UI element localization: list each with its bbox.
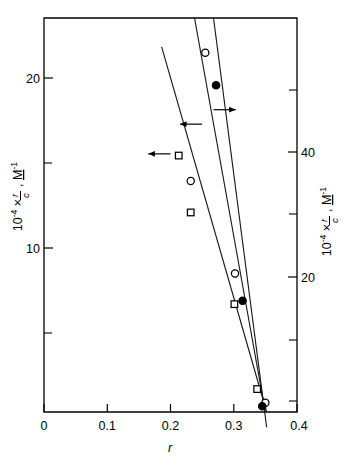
y-right-tick-label-40: 40 xyxy=(301,146,315,160)
right-fit-line xyxy=(214,18,267,427)
y-left-title-prefix: 10 xyxy=(11,217,25,231)
y-right-title-prefix: 10 xyxy=(320,242,334,256)
y-left-title-unit-exponent: -1 xyxy=(9,162,19,170)
y-axis-right-ticks xyxy=(288,90,297,401)
data-point-open-square-2 xyxy=(231,301,238,308)
arrow-left-axis-lower xyxy=(148,151,170,157)
data-point-filled-circle-0 xyxy=(212,82,219,89)
x-tick-label-0.3: 0.3 xyxy=(225,419,242,433)
data-point-open-circle-0 xyxy=(202,49,209,56)
y-right-title-unit: M xyxy=(320,195,334,205)
y-left-title-times: × xyxy=(11,199,25,206)
x-axis-tick-labels: 0 0.1 0.2 0.3 0.4 xyxy=(41,419,308,433)
y-right-title-denominator: c xyxy=(329,218,340,223)
data-point-open-circle-1 xyxy=(187,177,194,184)
y-right-title-times: × xyxy=(320,224,334,231)
x-axis-title: r xyxy=(168,441,173,455)
svg-text:, M-1: , M-1 xyxy=(318,187,334,212)
data-point-open-square-3 xyxy=(254,386,261,393)
arrow-left-axis-lower-head xyxy=(148,151,155,157)
svg-text:, M-1: , M-1 xyxy=(9,162,25,187)
x-tick-label-0.2: 0.2 xyxy=(162,419,179,433)
x-tick-label-0.4: 0.4 xyxy=(290,419,307,433)
x-tick-label-0: 0 xyxy=(41,419,48,433)
y-axis-left-title: 10-4 × r c , M-1 xyxy=(9,162,31,231)
chart-svg: 0 0.1 0.2 0.3 0.4 r 20 10 xyxy=(0,0,343,459)
scatchard-plot-figure: 0 0.1 0.2 0.3 0.4 r 20 10 xyxy=(0,0,343,459)
open-square-series xyxy=(175,152,260,392)
y-axis-left-ticks xyxy=(44,78,53,333)
svg-text:10-4 ×: 10-4 × xyxy=(9,199,25,231)
y-axis-right-title: 10-4 × r c , M-1 xyxy=(318,187,340,256)
y-right-title-numerator: r xyxy=(318,218,329,222)
y-left-tick-label-10: 10 xyxy=(26,242,40,256)
y-axis-right-tick-labels: 40 20 xyxy=(301,146,315,285)
data-point-open-square-0 xyxy=(175,152,182,159)
left-fit-line xyxy=(162,47,267,412)
data-point-open-circle-2 xyxy=(231,270,238,277)
y-axis-left-tick-labels: 20 10 xyxy=(26,72,40,256)
middle-fit-line xyxy=(195,18,266,412)
data-point-filled-circle-1 xyxy=(239,297,246,304)
y-right-title-unit-exponent: -1 xyxy=(318,187,328,195)
data-point-open-square-1 xyxy=(187,209,194,216)
y-left-title-numerator: r xyxy=(9,193,20,197)
y-right-tick-label-20: 20 xyxy=(301,271,315,285)
svg-text:10-4 ×: 10-4 × xyxy=(318,224,334,256)
y-left-title-denominator: c xyxy=(20,193,31,198)
plot-content xyxy=(148,18,269,427)
y-left-title-unit: M xyxy=(11,170,25,180)
data-point-filled-circle-2 xyxy=(259,403,266,410)
y-left-tick-label-20: 20 xyxy=(26,72,40,86)
x-tick-label-0.1: 0.1 xyxy=(99,419,116,433)
arrow-right-axis-head xyxy=(229,107,236,113)
